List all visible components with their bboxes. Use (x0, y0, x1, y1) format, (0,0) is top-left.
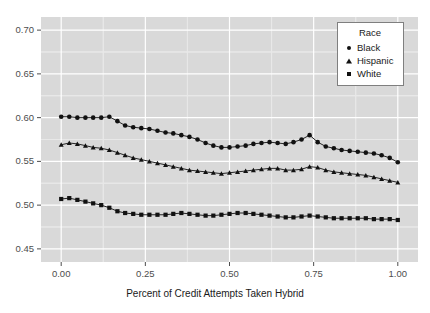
data-point (147, 127, 152, 132)
data-point (364, 150, 369, 155)
data-point (283, 142, 288, 147)
data-point (244, 211, 248, 215)
legend-title: Race (343, 27, 397, 38)
legend-item-hispanic[interactable]: Hispanic (343, 54, 397, 67)
data-point (163, 213, 167, 217)
data-point (59, 114, 64, 119)
data-point (139, 213, 143, 217)
data-point (267, 140, 272, 145)
data-point (380, 217, 384, 221)
circle-marker-icon (343, 42, 355, 54)
data-point (115, 119, 120, 124)
data-point (339, 148, 344, 153)
data-point (235, 144, 240, 149)
data-point (75, 115, 80, 120)
data-point (83, 115, 88, 120)
legend-items: BlackHispanicWhite (343, 41, 397, 80)
x-axis-tick-label: 0.00 (36, 268, 86, 279)
data-point (67, 114, 72, 119)
y-axis-tick-label: 0.45 (0, 243, 34, 254)
y-axis-tick-label: 0.65 (0, 68, 34, 79)
data-point (75, 198, 79, 202)
data-point (131, 212, 135, 216)
data-point (115, 209, 119, 213)
data-point (123, 123, 128, 128)
data-point (332, 146, 337, 151)
data-point (83, 200, 87, 204)
data-point (235, 211, 239, 215)
data-point (187, 135, 192, 140)
data-point (179, 211, 183, 215)
data-point (155, 128, 160, 133)
data-point (59, 197, 63, 201)
data-point (211, 214, 215, 218)
data-point (195, 137, 200, 142)
data-point (243, 143, 248, 148)
x-axis-title: Percent of Credit Attempts Taken Hybrid (0, 288, 430, 299)
data-point (291, 215, 295, 219)
data-point (259, 141, 264, 146)
legend-item-black[interactable]: Black (343, 41, 397, 54)
data-point (355, 149, 360, 154)
data-point (67, 196, 71, 200)
data-point (219, 145, 224, 150)
data-point (147, 213, 151, 217)
square-marker-icon (343, 68, 355, 80)
data-point (276, 214, 280, 218)
data-point (171, 131, 176, 136)
legend-item-label: Hispanic (355, 55, 393, 66)
chart-container: 0.450.500.550.600.650.70 0.000.250.500.7… (0, 0, 430, 313)
data-point (348, 216, 352, 220)
data-point (163, 130, 168, 135)
legend-item-label: Black (355, 42, 380, 53)
data-point (251, 212, 255, 216)
data-point (139, 126, 144, 131)
data-point (259, 213, 263, 217)
data-point (203, 141, 208, 146)
data-point (171, 212, 175, 216)
data-point (219, 213, 223, 217)
data-point (372, 217, 376, 221)
data-point (284, 215, 288, 219)
legend-item-white[interactable]: White (343, 67, 397, 80)
data-point (356, 216, 360, 220)
data-point (388, 217, 392, 221)
data-point (299, 214, 303, 218)
data-point (339, 216, 343, 220)
data-point (291, 140, 296, 145)
data-point (227, 145, 232, 150)
data-point (99, 203, 103, 207)
data-point (396, 160, 401, 165)
legend-item-label: White (355, 68, 381, 79)
y-axis-tick-label: 0.70 (0, 24, 34, 35)
y-axis-tick-label: 0.60 (0, 112, 34, 123)
y-axis-tick-label: 0.50 (0, 199, 34, 210)
x-axis-tick-label: 0.25 (120, 268, 170, 279)
data-point (227, 212, 231, 216)
data-point (387, 156, 392, 161)
data-point (323, 144, 328, 149)
data-point (316, 214, 320, 218)
data-point (131, 125, 136, 130)
data-point (347, 149, 352, 154)
data-point (211, 143, 216, 148)
data-point (155, 213, 159, 217)
data-point (107, 114, 112, 119)
data-point (99, 115, 104, 120)
data-point (251, 142, 256, 147)
data-point (332, 216, 336, 220)
data-point (179, 133, 184, 138)
data-point (187, 212, 191, 216)
data-point (91, 115, 96, 120)
data-point (195, 213, 199, 217)
data-point (324, 215, 328, 219)
data-point (299, 137, 304, 142)
data-point (123, 211, 127, 215)
data-point (91, 201, 95, 205)
data-point (107, 206, 111, 210)
data-point (204, 214, 208, 218)
data-point (372, 151, 377, 156)
data-point (315, 140, 320, 145)
legend: Race BlackHispanicWhite (337, 22, 404, 86)
triangle-marker-icon (343, 55, 355, 67)
